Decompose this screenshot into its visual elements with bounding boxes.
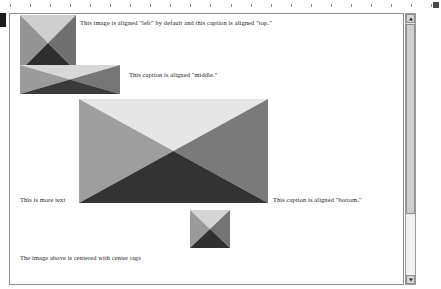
bowtie-graphic bbox=[20, 15, 76, 71]
ruler-tick bbox=[170, 4, 171, 7]
scroll-down-button[interactable] bbox=[406, 275, 415, 284]
ruler-tick bbox=[351, 4, 352, 7]
ruler-tick bbox=[391, 4, 392, 7]
bowtie-image-bottom bbox=[190, 210, 230, 248]
vertical-scrollbar[interactable] bbox=[405, 13, 416, 285]
ruler-tick bbox=[271, 4, 272, 7]
ruler-tick bbox=[30, 4, 31, 7]
ruler-tick bbox=[411, 4, 412, 7]
ruler-tick bbox=[311, 4, 312, 7]
ruler-tick bbox=[110, 4, 111, 7]
scroll-up-button[interactable] bbox=[406, 14, 415, 23]
bowtie-image-middle bbox=[20, 65, 120, 94]
document-page[interactable]: This image is aligned "left" by default … bbox=[9, 13, 404, 285]
caption-more-text: This is more text bbox=[20, 196, 65, 204]
ruler-tick bbox=[150, 4, 151, 7]
ruler-tick bbox=[10, 4, 11, 7]
document-window: This image is aligned "left" by default … bbox=[0, 0, 441, 289]
ruler-tick bbox=[231, 4, 232, 7]
ruler-tick bbox=[130, 4, 131, 7]
bowtie-image-center bbox=[79, 99, 268, 203]
ruler-tick bbox=[210, 4, 211, 7]
ruler-tick bbox=[331, 4, 332, 7]
scrollbar-track[interactable] bbox=[406, 215, 415, 275]
left-tab-marker-icon[interactable] bbox=[0, 13, 6, 27]
ruler-tick bbox=[190, 4, 191, 7]
caption-middle-aligned: This caption is aligned "middle." bbox=[129, 71, 217, 79]
caption-bottom-aligned: This caption is aligned "bottom." bbox=[273, 196, 362, 204]
ruler-tick bbox=[251, 4, 252, 7]
window-bottom-left-edge bbox=[0, 281, 9, 289]
bowtie-graphic bbox=[79, 99, 268, 203]
ruler-tick bbox=[431, 4, 432, 7]
ruler-tick bbox=[90, 4, 91, 7]
ruler-tick bbox=[371, 4, 372, 7]
caption-center-note: The image above is centered with center … bbox=[20, 254, 141, 262]
scroll-down-icon bbox=[409, 278, 413, 281]
right-indent-marker-icon[interactable] bbox=[433, 2, 439, 8]
scroll-up-icon bbox=[409, 17, 413, 20]
bowtie-image-left bbox=[20, 15, 76, 71]
ruler-tick bbox=[50, 4, 51, 7]
document-body: This image is aligned "left" by default … bbox=[10, 14, 403, 284]
ruler-tick bbox=[70, 4, 71, 7]
horizontal-ruler[interactable] bbox=[0, 0, 441, 12]
scrollbar-thumb[interactable] bbox=[406, 24, 415, 214]
ruler-tick bbox=[291, 4, 292, 7]
caption-top-aligned: This image is aligned "left" by default … bbox=[80, 19, 272, 27]
bowtie-graphic bbox=[190, 210, 230, 248]
bowtie-graphic bbox=[20, 65, 120, 94]
